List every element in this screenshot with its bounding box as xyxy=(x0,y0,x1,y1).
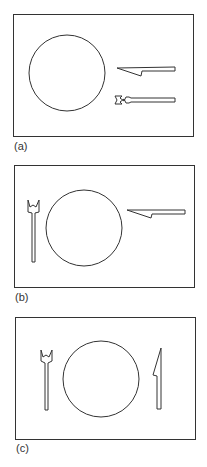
panel-c-label: (c) xyxy=(16,442,29,454)
panel-b-label: (b) xyxy=(15,291,28,303)
panel-c-knife-icon xyxy=(153,348,161,409)
place-setting-diagram xyxy=(0,0,207,467)
panel-c-plate xyxy=(63,341,139,417)
panel-b-knife-icon xyxy=(127,210,185,218)
panel-a-fork-icon xyxy=(115,96,175,104)
panel-a-label: (a) xyxy=(14,140,27,152)
panel-b-fork-icon xyxy=(28,200,39,262)
panel-a-frame xyxy=(14,15,194,137)
panel-a-knife-icon xyxy=(117,67,175,76)
panel-c-fork-icon xyxy=(41,350,52,410)
panel-b-plate xyxy=(46,190,122,266)
panel-c-frame xyxy=(16,318,196,440)
panel-a-plate xyxy=(29,35,105,111)
panel-b-frame xyxy=(15,166,195,288)
